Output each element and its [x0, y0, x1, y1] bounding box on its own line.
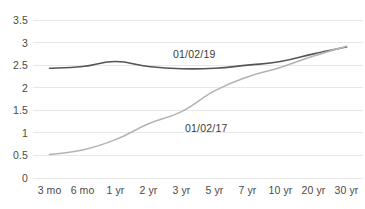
x-tick-label: 3 mo	[33, 184, 66, 202]
x-tick-label: 20 yr	[297, 184, 330, 202]
plot-svg	[33, 0, 363, 209]
y-tick-label: 2	[0, 83, 28, 94]
x-tick-label: 6 mo	[66, 184, 99, 202]
x-tick-label: 7 yr	[231, 184, 264, 202]
y-tick-label: 0.5	[0, 150, 28, 161]
line-chart: 00.511.522.533.5 01/02/19 01/02/17 3 mo6…	[0, 0, 365, 209]
series-line-01-02-17	[50, 46, 347, 154]
y-tick-label: 3.5	[0, 15, 28, 26]
plot-area: 01/02/19 01/02/17	[33, 0, 363, 209]
x-tick-label: 2 yr	[132, 184, 165, 202]
y-tick-label: 1.5	[0, 105, 28, 116]
y-tick-label: 3	[0, 38, 28, 49]
y-tick-label: 1	[0, 128, 28, 139]
y-tick-label: 2.5	[0, 60, 28, 71]
x-tick-label: 3 yr	[165, 184, 198, 202]
y-tick-label: 0	[0, 173, 28, 184]
x-tick-label: 10 yr	[264, 184, 297, 202]
gridlines	[33, 20, 363, 178]
x-tick-label: 30 yr	[330, 184, 363, 202]
x-tick-label: 1 yr	[99, 184, 132, 202]
y-axis: 00.511.522.533.5	[0, 0, 28, 209]
series-label-01-02-19: 01/02/19	[173, 49, 215, 60]
x-axis: 3 mo6 mo1 yr2 yr3 yr5 yr7 yr10 yr20 yr30…	[33, 184, 363, 202]
x-tick-label: 5 yr	[198, 184, 231, 202]
series-label-01-02-17: 01/02/17	[185, 123, 227, 134]
series-lines	[50, 46, 347, 154]
